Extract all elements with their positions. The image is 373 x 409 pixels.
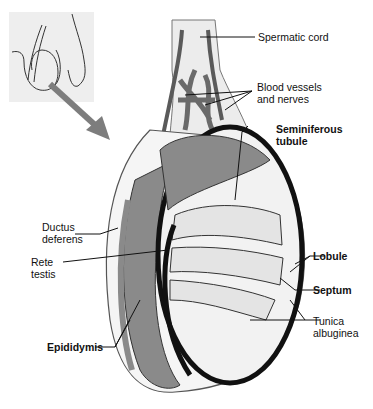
testis-diagram: Spermatic cord Blood vessels and nerves … [0, 0, 373, 409]
label-septum: Septum [313, 284, 352, 296]
label-rete-testis: Rete testis [31, 256, 56, 280]
label-spermatic-cord: Spermatic cord [258, 31, 329, 43]
label-tunica-albuginea: Tunica albuginea [313, 315, 359, 339]
label-blood-vessels-and-nerves: Blood vessels and nerves [257, 81, 322, 105]
label-ductus-deferens: Ductus deferens [42, 221, 83, 245]
label-seminiferous-tubule: Seminiferous tubule [276, 123, 343, 147]
label-epididymis: Epididymis [47, 341, 103, 353]
label-lobule: Lobule [313, 250, 347, 262]
